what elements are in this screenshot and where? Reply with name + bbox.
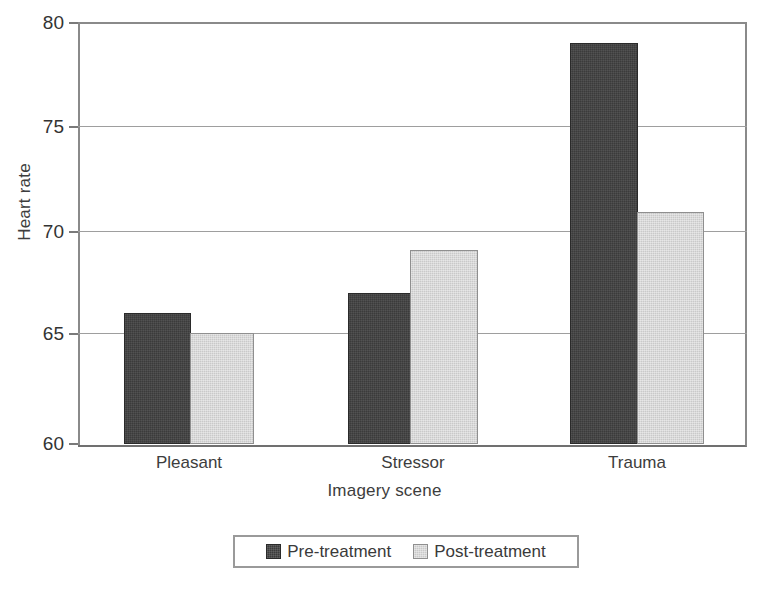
y-tick-label-75-wrap: 75 xyxy=(0,117,64,137)
legend-label-pre-treatment: Pre-treatment xyxy=(287,542,391,562)
x-axis-title: Imagery scene xyxy=(0,481,769,501)
y-tick-label-75: 75 xyxy=(2,117,64,136)
dark-swatch-icon xyxy=(266,544,281,559)
y-tick-label-70-wrap: 70 xyxy=(0,222,64,242)
light-swatch-icon xyxy=(413,544,428,559)
bar-stressor-post-treatment xyxy=(410,250,478,444)
bar-chart-figure: Heart rate 80 75 70 65 60 Pleasant Stres… xyxy=(0,0,769,594)
x-category-label-trauma: Trauma xyxy=(567,453,707,473)
bar-trauma-post-treatment xyxy=(637,212,704,444)
bar-trauma-pre-treatment xyxy=(570,43,638,444)
y-tick-mark-80 xyxy=(69,22,78,24)
y-tick-label-65: 65 xyxy=(2,324,64,343)
y-tick-mark-65 xyxy=(69,333,78,335)
legend-label-post-treatment: Post-treatment xyxy=(434,542,546,562)
gridline-75 xyxy=(78,126,747,127)
y-tick-label-80-wrap: 80 xyxy=(0,13,64,33)
y-tick-mark-60 xyxy=(69,443,78,445)
y-tick-mark-70 xyxy=(69,231,78,233)
y-tick-label-65-wrap: 65 xyxy=(0,324,64,344)
y-axis-title: Heart rate xyxy=(15,122,35,282)
y-tick-label-70: 70 xyxy=(2,222,64,241)
y-tick-mark-75 xyxy=(69,126,78,128)
x-category-label-pleasant: Pleasant xyxy=(119,453,259,473)
legend-entry-pre-treatment: Pre-treatment xyxy=(266,542,391,562)
bar-pleasant-pre-treatment xyxy=(124,313,191,444)
bar-stressor-pre-treatment xyxy=(348,293,411,444)
legend-entry-post-treatment: Post-treatment xyxy=(413,542,546,562)
y-axis-spine xyxy=(78,22,80,445)
y-tick-label-60: 60 xyxy=(2,434,64,453)
x-category-label-stressor: Stressor xyxy=(343,453,483,473)
y-tick-label-80: 80 xyxy=(2,13,64,32)
y-tick-label-60-wrap: 60 xyxy=(0,434,64,454)
legend: Pre-treatment Post-treatment xyxy=(233,535,579,568)
bar-pleasant-post-treatment xyxy=(190,333,254,444)
